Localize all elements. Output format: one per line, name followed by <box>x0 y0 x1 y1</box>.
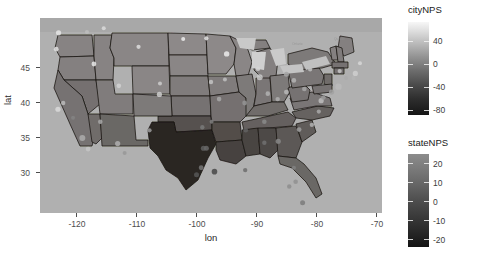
city-point <box>352 76 356 80</box>
xtick-label-m110: -110 <box>122 219 152 229</box>
city-point <box>284 90 289 95</box>
city-point <box>302 87 307 92</box>
xtick-mark-m100 <box>196 213 197 217</box>
city-point <box>204 36 208 40</box>
state-alabama <box>258 128 278 158</box>
city-point <box>242 101 247 106</box>
ytick-mark-45 <box>36 67 40 68</box>
state-massachusetts <box>332 62 348 68</box>
city-point <box>210 120 214 124</box>
legend-citynps-label-m40: -40 <box>433 82 445 92</box>
city-point <box>335 83 341 89</box>
chart-figure: Ontario Quebec 45 40 35 30 -120 -110 -10… <box>0 0 487 262</box>
xtick-mark-m110 <box>136 213 137 217</box>
legend-statenps-tickmarks <box>408 154 429 247</box>
xtick-mark-m90 <box>256 213 257 217</box>
city-point <box>275 97 279 101</box>
xtick-mark-m120 <box>76 213 77 217</box>
city-point <box>262 119 267 124</box>
city-point <box>200 125 204 129</box>
ytick-label-35: 35 <box>8 133 30 143</box>
city-point <box>199 165 204 170</box>
svg-text:Ontario: Ontario <box>292 42 303 46</box>
city-point <box>243 128 248 133</box>
city-point <box>292 166 296 170</box>
city-point <box>212 169 218 175</box>
xtick-label-m80: -80 <box>302 219 332 229</box>
xtick-label-m90: -90 <box>242 219 272 229</box>
city-point <box>86 147 91 152</box>
city-point <box>217 97 222 102</box>
city-point <box>310 123 314 127</box>
us-map-svg: Ontario Quebec <box>40 18 382 213</box>
city-point <box>115 141 120 146</box>
city-point <box>276 139 281 144</box>
city-point <box>71 116 75 120</box>
ytick-mark-30 <box>36 172 40 173</box>
state-montana <box>110 33 169 66</box>
state-north-dakota <box>168 33 207 55</box>
state-colorado <box>133 94 172 116</box>
xtick-label-m120: -120 <box>62 219 92 229</box>
city-point <box>353 71 358 76</box>
ytick-label-30: 30 <box>8 168 30 178</box>
city-point <box>123 151 127 155</box>
xtick-mark-m70 <box>376 213 377 217</box>
legend-citynps-label-0: 0 <box>433 59 438 69</box>
city-point <box>317 110 321 114</box>
city-point <box>55 107 60 112</box>
ytick-label-45: 45 <box>8 63 30 73</box>
city-point <box>158 82 162 86</box>
legend-statenps-label-m20: -20 <box>433 235 445 245</box>
city-point <box>147 128 151 132</box>
ytick-mark-40 <box>36 102 40 103</box>
city-point <box>209 80 213 84</box>
state-kansas <box>171 96 211 116</box>
city-point <box>194 172 199 177</box>
state-washington <box>55 35 94 57</box>
city-point <box>224 51 229 56</box>
city-point <box>284 72 289 77</box>
legend-statenps-label-10: 10 <box>433 178 442 188</box>
city-point <box>338 69 342 73</box>
city-point <box>321 95 326 100</box>
state-south-dakota <box>169 55 208 76</box>
city-point <box>204 146 209 151</box>
city-point <box>344 76 348 80</box>
city-point <box>102 26 106 30</box>
state-arkansas <box>212 122 242 142</box>
legend-statenps-label-m10: -10 <box>433 216 445 226</box>
legend-statenps-label-0: 0 <box>433 197 438 207</box>
ytick-mark-35 <box>36 137 40 138</box>
city-point <box>54 47 59 52</box>
city-point <box>358 61 362 65</box>
city-point <box>292 78 297 83</box>
city-point <box>308 67 312 71</box>
canada-strip <box>40 18 382 32</box>
city-point <box>117 84 122 89</box>
city-point <box>181 37 185 41</box>
city-point <box>300 200 305 205</box>
state-nebraska <box>170 76 210 96</box>
city-point <box>136 45 140 49</box>
legend-citynps-tickmarks <box>408 22 429 115</box>
city-point <box>61 101 65 105</box>
xtick-mark-m80 <box>316 213 317 217</box>
city-point <box>297 127 302 132</box>
legend-statenps-label-20: 20 <box>433 159 442 169</box>
svg-text:Quebec: Quebec <box>334 37 346 41</box>
city-point <box>293 180 298 185</box>
xtick-label-m70: -70 <box>362 219 392 229</box>
legend-citynps-colorbar[interactable] <box>408 22 429 115</box>
legend-statenps-colorbar[interactable] <box>408 154 429 247</box>
state-missouri <box>210 92 248 122</box>
legend-citynps-label-40: 40 <box>433 36 442 46</box>
city-point <box>85 30 89 34</box>
city-point <box>98 119 103 124</box>
y-axis-title: lat <box>2 95 13 105</box>
city-point <box>256 66 261 71</box>
legend-citynps-label-m80: -80 <box>433 105 445 115</box>
city-point <box>223 78 227 82</box>
state-wyoming <box>132 66 170 94</box>
state-maryland <box>312 84 332 94</box>
